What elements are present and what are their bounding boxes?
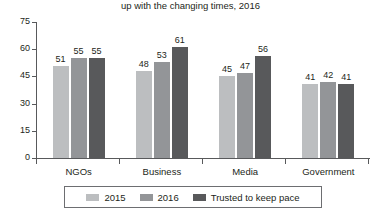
y-tick-label-60: 60 [20,43,30,54]
bar-value-label: 53 [157,50,167,60]
y-tick-label-75: 75 [20,16,30,27]
bar-value-label: 56 [258,44,268,54]
y-tick-label-0: 0 [25,152,30,163]
legend-label: 2016 [158,192,179,203]
bar[interactable] [302,84,318,158]
x-axis-line [36,158,370,159]
bar-column[interactable]: 47 [237,18,253,158]
bar[interactable] [71,58,87,158]
bar[interactable] [89,58,105,158]
bar-group: 485361Business [120,18,203,158]
legend-swatch [193,194,206,201]
bar[interactable] [136,71,152,158]
plot-area: 0 15 30 45 60 75 515555NGOs485361Busines… [36,18,370,162]
x-tick-2 [202,159,203,164]
y-tick-label-15: 15 [20,125,30,136]
bar-column[interactable]: 51 [53,18,69,158]
bar-group: 515555NGOs [37,18,120,158]
bar-value-label: 55 [74,46,84,56]
bar-column[interactable]: 56 [255,18,271,158]
bar-column[interactable]: 55 [89,18,105,158]
bar-column[interactable]: 61 [172,18,188,158]
legend-label: Trusted to keep pace [211,192,300,203]
bar[interactable] [320,82,336,158]
x-tick-0 [36,159,37,164]
legend-item[interactable]: 2015 [86,192,125,203]
bar-column[interactable]: 48 [136,18,152,158]
bar-value-label: 47 [240,61,250,71]
chart-legend: 20152016Trusted to keep pace [64,186,322,208]
bar[interactable] [237,73,253,158]
bar-value-label: 48 [139,59,149,69]
x-axis-category-label: Media [232,166,258,178]
bar-value-label: 55 [92,46,102,56]
x-tick-1 [119,159,120,164]
x-tick-4 [368,159,369,164]
bar-value-label: 45 [222,64,232,74]
x-axis-category-label: NGOs [65,166,91,178]
bar[interactable] [338,84,354,158]
legend-swatch [140,194,153,201]
bar-groups: 515555NGOs485361Business454756Media41424… [37,18,370,158]
bar-value-label: 61 [175,35,185,45]
bar-value-label: 42 [323,70,333,80]
bar-chart: up with the changing times, 2016 0 15 30… [0,0,381,216]
x-tick-3 [285,159,286,164]
bar-group: 454756Media [204,18,287,158]
bar[interactable] [154,62,170,158]
bar[interactable] [219,76,235,158]
bar-group: 414241Government [287,18,370,158]
legend-item[interactable]: Trusted to keep pace [193,192,300,203]
bar[interactable] [53,66,69,158]
bar-column[interactable]: 42 [320,18,336,158]
bar[interactable] [255,56,271,158]
bar-column[interactable]: 55 [71,18,87,158]
bar-value-label: 41 [305,72,315,82]
x-axis-category-label: Government [302,166,354,178]
bar-value-label: 51 [56,54,66,64]
legend-label: 2015 [104,192,125,203]
y-tick-label-45: 45 [20,70,30,81]
legend-item[interactable]: 2016 [140,192,179,203]
y-tick-label-30: 30 [20,98,30,109]
bar[interactable] [172,47,188,158]
bar-column[interactable]: 41 [302,18,318,158]
legend-swatch [86,194,99,201]
bar-column[interactable]: 45 [219,18,235,158]
bar-column[interactable]: 41 [338,18,354,158]
bar-column[interactable]: 53 [154,18,170,158]
chart-title: up with the changing times, 2016 [0,0,381,12]
bar-value-label: 41 [341,72,351,82]
x-axis-category-label: Business [143,166,182,178]
